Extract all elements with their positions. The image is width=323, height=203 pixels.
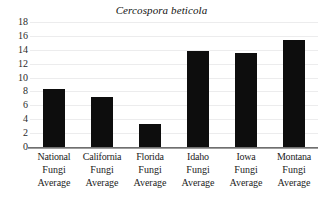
x-tick-label-line: Average: [222, 176, 270, 189]
y-tick-label-10: 10: [2, 73, 28, 83]
x-tick-label-line: Idaho: [174, 150, 222, 163]
bar-chart-figure: Cercospora beticola 181614121086420 Nati…: [0, 0, 323, 203]
bar-slot: [126, 22, 174, 147]
x-tick-label: IowaFungiAverage: [222, 150, 270, 189]
bar[interactable]: [235, 53, 257, 147]
x-tick-label-line: Fungi: [30, 163, 78, 176]
x-tick-label: CaliforniaFungiAverage: [78, 150, 126, 189]
y-axis-tick-labels: 181614121086420: [0, 0, 28, 203]
bar[interactable]: [283, 40, 305, 147]
x-tick-label-line: National: [30, 150, 78, 163]
x-tick-label-line: Fungi: [222, 163, 270, 176]
x-tick-label: MontanaFungiAverage: [270, 150, 318, 189]
x-axis-tick-labels: NationalFungiAverageCaliforniaFungiAvera…: [30, 150, 318, 200]
y-tick-label-0: 0: [2, 142, 28, 152]
bar-slot: [30, 22, 78, 147]
x-tick-label-line: Average: [78, 176, 126, 189]
x-tick-label-line: Average: [270, 176, 318, 189]
bar[interactable]: [139, 124, 161, 147]
x-tick-label-line: California: [78, 150, 126, 163]
x-tick-label-line: Fungi: [174, 163, 222, 176]
x-tick-label-line: Average: [30, 176, 78, 189]
y-tick-label-16: 16: [2, 31, 28, 41]
y-tick-label-4: 4: [2, 114, 28, 124]
x-tick-label: FloridaFungiAverage: [126, 150, 174, 189]
y-tick-label-14: 14: [2, 45, 28, 55]
x-tick-label-line: Fungi: [270, 163, 318, 176]
y-tick-label-8: 8: [2, 86, 28, 96]
bar[interactable]: [43, 89, 65, 147]
bar[interactable]: [187, 51, 209, 147]
y-tick-label-6: 6: [2, 100, 28, 110]
x-tick-label-line: Fungi: [126, 163, 174, 176]
y-tick-label-2: 2: [2, 128, 28, 138]
x-tick-label-line: Fungi: [78, 163, 126, 176]
x-tick-label-line: Montana: [270, 150, 318, 163]
x-axis-line: [28, 147, 318, 148]
bar-slot: [78, 22, 126, 147]
plot-area: [30, 22, 318, 147]
y-tick-label-18: 18: [2, 17, 28, 27]
x-tick-label: IdahoFungiAverage: [174, 150, 222, 189]
chart-title: Cercospora beticola: [0, 3, 323, 17]
x-tick-label: NationalFungiAverage: [30, 150, 78, 189]
x-tick-label-line: Florida: [126, 150, 174, 163]
x-tick-label-line: Average: [126, 176, 174, 189]
x-tick-label-line: Average: [174, 176, 222, 189]
bar-slot: [270, 22, 318, 147]
bar-slot: [174, 22, 222, 147]
bar-slot: [222, 22, 270, 147]
bar[interactable]: [91, 97, 113, 147]
x-tick-label-line: Iowa: [222, 150, 270, 163]
y-tick-label-12: 12: [2, 59, 28, 69]
